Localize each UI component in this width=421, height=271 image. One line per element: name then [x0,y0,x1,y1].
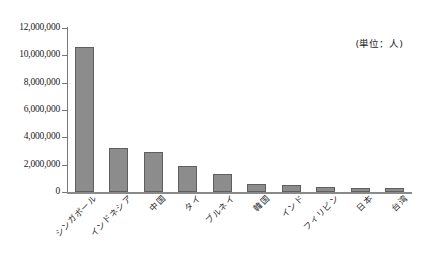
x-axis-label: インド [280,194,305,219]
y-axis-tick-label: 0 [55,187,60,197]
y-axis-tick-label: 4,000,000 [24,132,60,142]
bar-slot [274,28,309,192]
bar-slot [205,28,240,192]
y-axis-tick-label: 2,000,000 [24,160,60,170]
bar [247,184,266,192]
y-axis-tick [62,192,67,193]
x-axis-label: 韓国 [252,194,271,213]
bar-slot [171,28,206,192]
bar-slot [102,28,137,192]
bar [316,187,335,192]
bar-slot [309,28,344,192]
y-axis-tick-label: 12,000,000 [19,23,60,33]
bar-slot [67,28,102,192]
bar-series [67,28,412,192]
x-axis-label: ブルネイ [205,194,236,225]
bar [109,148,128,192]
bar [351,188,370,193]
x-axis-label-group: シンガポールインドネシア中国タイブルネイ韓国インドフィリピン日本台湾 [67,194,412,269]
x-axis-label: フィリピン [302,194,340,232]
x-axis-label: 台湾 [390,194,409,213]
bar [144,152,163,192]
bar-slot [343,28,378,192]
bar-slot [240,28,275,192]
unit-annotation: (単位：人) [356,36,403,50]
y-axis-tick-label: 10,000,000 [19,50,60,60]
y-axis-tick-label: 6,000,000 [24,105,60,115]
bar [282,185,301,192]
bar [385,188,404,192]
x-axis-label: 中国 [149,194,168,213]
x-axis-label: タイ [183,194,202,213]
x-axis-label: 日本 [356,194,375,213]
y-axis-tick-label: 8,000,000 [24,78,60,88]
bar [75,47,94,192]
bar [213,174,232,192]
bar-slot [136,28,171,192]
bar [178,166,197,192]
bar-chart: 12,000,00010,000,0008,000,0006,000,0004,… [0,0,421,271]
bar-slot [378,28,413,192]
